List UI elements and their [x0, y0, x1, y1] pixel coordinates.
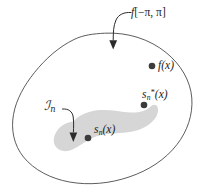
diagram-canvas: [0, 0, 210, 195]
label-sn-arg: (x): [103, 123, 116, 135]
label-domain: f[−π, π]: [131, 7, 166, 19]
point-marker-f-x: [149, 63, 156, 70]
label-domain-interval: −π, π: [138, 6, 162, 18]
domain-arrow-curve: [113, 12, 131, 40]
label-point-sn-x: sn(x): [94, 124, 115, 136]
domain-arrow-head: [109, 40, 117, 49]
label-sn-star-subscript: n: [147, 93, 151, 102]
point-marker-sn-x: [85, 135, 92, 142]
label-sn-star-base: s: [142, 88, 146, 100]
point-marker-sn-star-x: [141, 102, 148, 109]
label-subspace-subscript: n: [50, 104, 55, 114]
outer-boundary-shape: [13, 33, 192, 184]
label-point-sn-star-x: sn*(x): [142, 89, 168, 102]
label-domain-bracket-close: ]: [162, 6, 166, 18]
label-sn-star-arg: (x): [155, 88, 168, 100]
label-point-f-x: f(x): [158, 60, 174, 72]
label-point-f-arg: (x): [161, 59, 174, 71]
label-subspace: ℐn: [44, 99, 56, 113]
math-set-diagram: f[−π, π] ℐn f(x) sn*(x) sn(x): [0, 0, 210, 195]
label-sn-base: s: [94, 123, 98, 135]
